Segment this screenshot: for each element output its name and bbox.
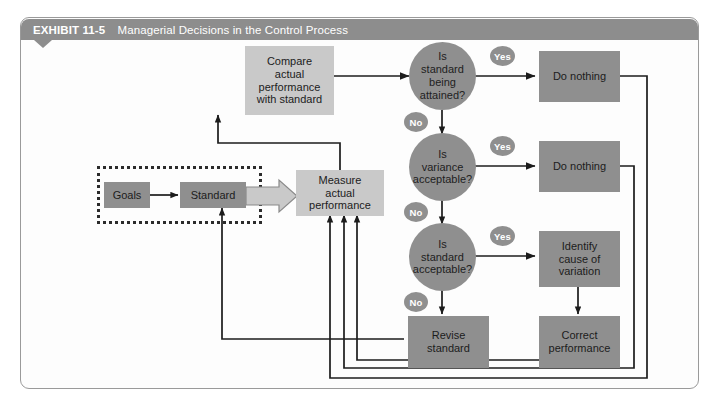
edge-label-yes-3: Yes xyxy=(490,226,515,246)
exhibit-title-bar: EXHIBIT 11-5 Managerial Decisions in the… xyxy=(21,19,698,40)
exhibit-number: 11-5 xyxy=(82,24,105,36)
edge-label-yes-2-text: Yes xyxy=(494,141,511,152)
edge-label-no-3-text: No xyxy=(409,297,422,308)
exhibit-page: EXHIBIT 11-5 Managerial Decisions in the… xyxy=(0,0,720,409)
page-top-edge xyxy=(0,0,720,7)
decision-is-standard-acceptable[interactable]: Is standard acceptable? xyxy=(409,223,476,291)
exhibit-heading: Managerial Decisions in the Control Proc… xyxy=(117,24,348,36)
node-correct-performance[interactable]: Correct performance xyxy=(539,316,620,368)
edge-label-no-1-text: No xyxy=(409,117,422,128)
node-identify-label: Identify cause of variation xyxy=(559,240,601,279)
edge-label-no-2-text: No xyxy=(409,207,422,218)
decision2-label: Is variance acceptable? xyxy=(413,148,472,187)
edge-label-yes-1: Yes xyxy=(490,46,515,66)
decision3-label: Is standard acceptable? xyxy=(413,238,472,277)
edge-label-no-2: No xyxy=(404,202,428,222)
edge-label-no-1: No xyxy=(404,112,428,132)
edge-label-no-3: No xyxy=(404,292,428,312)
node-revise-label: Revise standard xyxy=(427,329,470,355)
node-do-nothing-1-label: Do nothing xyxy=(553,70,606,83)
exhibit-label: EXHIBIT xyxy=(33,24,79,36)
edge-label-yes-3-text: Yes xyxy=(494,231,511,242)
node-do-nothing-2[interactable]: Do nothing xyxy=(539,141,620,192)
node-compare-with-standard[interactable]: Compare actual performance with standard xyxy=(245,46,334,115)
node-compare-label: Compare actual performance with standard xyxy=(257,55,322,107)
node-goals-label: Goals xyxy=(113,189,142,202)
decision-is-standard-being-attained[interactable]: Is standard being attained? xyxy=(409,42,476,110)
node-revise-standard[interactable]: Revise standard xyxy=(408,316,489,368)
decision-is-variance-acceptable[interactable]: Is variance acceptable? xyxy=(409,133,476,201)
edge-label-yes-1-text: Yes xyxy=(494,51,511,62)
title-notch xyxy=(34,40,52,48)
node-goals[interactable]: Goals xyxy=(104,182,150,208)
decision1-label: Is standard being attained? xyxy=(420,50,465,102)
node-measure-actual-performance[interactable]: Measure actual performance xyxy=(296,170,384,216)
node-do-nothing-2-label: Do nothing xyxy=(553,160,606,173)
node-identify-cause-of-variation[interactable]: Identify cause of variation xyxy=(539,231,620,287)
exhibit-title-text: EXHIBIT 11-5 Managerial Decisions in the… xyxy=(33,24,348,36)
node-standard-label: Standard xyxy=(191,189,236,202)
node-measure-label: Measure actual performance xyxy=(309,174,371,213)
node-correct-label: Correct performance xyxy=(549,329,611,355)
edge-label-yes-2: Yes xyxy=(490,136,515,156)
node-do-nothing-1[interactable]: Do nothing xyxy=(539,51,620,102)
node-standard[interactable]: Standard xyxy=(180,182,246,208)
